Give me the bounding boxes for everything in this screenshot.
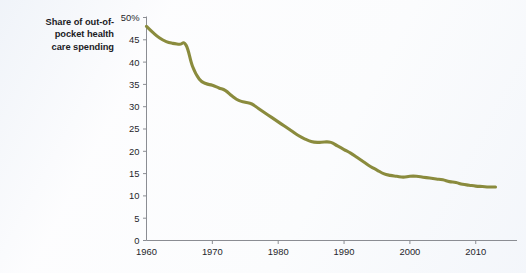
x-tick-label: 1960 xyxy=(136,246,157,257)
y-tick-label: 10 xyxy=(129,190,139,201)
y-axis: 05101520253035404550% xyxy=(121,12,147,246)
x-tick-label: 1970 xyxy=(202,246,223,257)
y-tick-label: 20 xyxy=(129,146,139,157)
y-tick-label: 5 xyxy=(134,213,139,224)
x-tick-label: 2000 xyxy=(399,246,420,257)
y-tick-label: 0 xyxy=(134,235,139,246)
line-chart-plot: 05101520253035404550% 196019701980199020… xyxy=(0,0,526,273)
chart-figure: Share of out-of- pocket health care spen… xyxy=(0,0,526,273)
x-tick-label: 1980 xyxy=(268,246,289,257)
x-axis: 196019701980199020002010 xyxy=(136,241,517,258)
y-tick-label: 35 xyxy=(129,79,139,90)
y-tick-label: 45 xyxy=(129,34,139,45)
y-tick-label: 25 xyxy=(129,123,139,134)
y-tick-label: 30 xyxy=(129,101,139,112)
y-tick-label: 15 xyxy=(129,168,139,179)
y-tick-label: 50% xyxy=(121,12,140,23)
x-tick-label: 2010 xyxy=(465,246,486,257)
data-series-line xyxy=(147,26,496,187)
y-tick-label: 40 xyxy=(129,57,139,68)
x-tick-label: 1990 xyxy=(334,246,355,257)
